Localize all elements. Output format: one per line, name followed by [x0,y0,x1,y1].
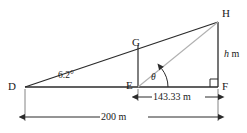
vertex-label-G: G [132,37,140,48]
triangle-outline [25,22,218,87]
triangle-diagram-figure: D G H E F 6.2° θ h m 143.33 m 200 m [0,0,247,133]
angle-label-at-D: 6.2° [58,71,74,81]
theta-angle-arc-icon [162,69,169,88]
dimension-label-df: 200 m [101,112,126,122]
right-angle-marker-icon [210,79,218,87]
dimension-label-ef: 143.33 m [153,92,191,102]
angle-label-theta-at-E: θ [151,73,156,83]
segment-EH-sightline [138,22,218,87]
vertex-label-D: D [8,81,16,92]
segment-DH-hypotenuse [25,22,218,87]
vertex-label-H: H [222,8,230,19]
vertex-label-E: E [126,80,133,91]
vertex-label-F: F [222,81,228,92]
height-unit-label: m [232,48,240,59]
height-label-hm: h m [224,49,239,59]
